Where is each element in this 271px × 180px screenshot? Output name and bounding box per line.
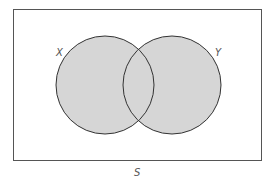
set-y-label: Y bbox=[215, 47, 222, 58]
set-x-label: X bbox=[55, 47, 64, 58]
venn-diagram: X Y S bbox=[0, 0, 271, 180]
universe-label: S bbox=[134, 167, 141, 178]
